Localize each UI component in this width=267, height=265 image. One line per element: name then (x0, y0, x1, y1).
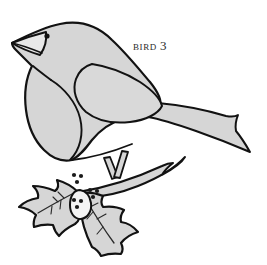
bird-eye (44, 33, 49, 38)
berry (72, 173, 76, 177)
figure-caption-label: Bird (133, 38, 157, 53)
berry (79, 199, 83, 203)
holly-berry-lobe (70, 190, 91, 219)
berry (88, 188, 92, 192)
bird-wing (74, 64, 162, 123)
berry (72, 198, 76, 202)
berry (75, 180, 79, 184)
berry (95, 189, 99, 193)
bird-leg-right (114, 151, 128, 178)
bird-tail (148, 103, 250, 152)
figure-caption-number: 3 (160, 38, 167, 53)
berry (75, 205, 79, 209)
berry (79, 174, 83, 178)
bird-legs (104, 151, 128, 179)
berry (91, 195, 95, 199)
branch-shape (78, 157, 185, 197)
bird-figure (12, 23, 250, 179)
holly-branch (78, 157, 185, 197)
illustration-root: Bird3 (0, 0, 267, 265)
figure-caption: Bird3 (133, 38, 213, 53)
